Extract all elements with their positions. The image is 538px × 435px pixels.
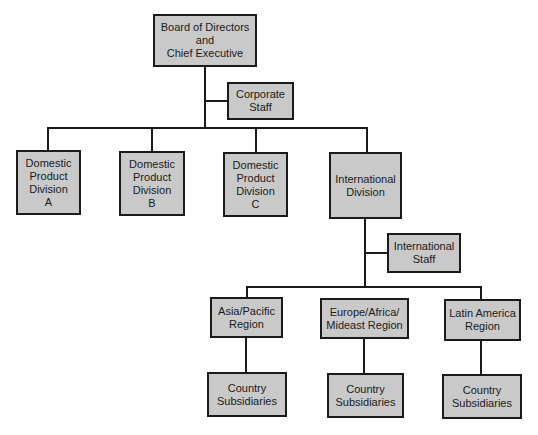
- domestic-division-b-box: Domestic Product Division B: [119, 151, 185, 216]
- connector: [151, 127, 153, 151]
- board-of-directors-box: Board of Directors and Chief Executive: [153, 14, 257, 67]
- connector: [246, 286, 482, 288]
- europe-africa-mideast-region-box: Europe/Africa/ Mideast Region: [320, 298, 409, 339]
- connector: [47, 127, 49, 151]
- europe-country-subsidiaries-box: Country Subsidiaries: [327, 373, 404, 418]
- connector: [480, 340, 482, 376]
- domestic-division-a-box: Domestic Product Division A: [16, 150, 81, 215]
- asia-pacific-region-box: Asia/Pacific Region: [210, 297, 283, 338]
- connector: [245, 336, 247, 372]
- connector: [364, 252, 388, 254]
- connector: [363, 338, 365, 374]
- connector: [47, 127, 368, 129]
- latin-america-region-box: Latin America Region: [444, 299, 521, 341]
- corporate-staff-box: Corporate Staff: [227, 82, 294, 120]
- connector: [255, 127, 257, 153]
- asia-country-subsidiaries-box: Country Subsidiaries: [207, 372, 287, 417]
- domestic-division-c-box: Domestic Product Division C: [223, 152, 288, 217]
- latam-country-subsidiaries-box: Country Subsidiaries: [442, 374, 522, 419]
- international-staff-box: International Staff: [387, 233, 461, 273]
- connector: [366, 127, 368, 153]
- connector: [204, 66, 206, 128]
- connector: [204, 100, 228, 102]
- international-division-box: International Division: [329, 152, 402, 219]
